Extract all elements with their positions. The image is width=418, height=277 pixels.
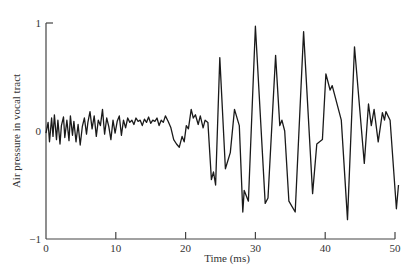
x-ticks: 01020304050	[43, 232, 401, 254]
x-tick-label: 0	[43, 242, 49, 254]
waveform-line	[46, 26, 399, 219]
x-tick-label: 50	[390, 242, 402, 254]
x-axis-label: Time (ms)	[204, 252, 250, 265]
x-tick-label: 20	[180, 242, 192, 254]
x-tick-label: 40	[320, 242, 332, 254]
x-tick-label: 30	[250, 242, 262, 254]
x-tick-label: 10	[110, 242, 122, 254]
y-tick-label: −1	[29, 233, 41, 245]
axes	[46, 23, 395, 239]
y-ticks: 10−1	[29, 17, 41, 245]
y-tick-label: 0	[36, 125, 42, 137]
waveform-chart: 01020304050 10−1 Time (ms) Air pressure …	[0, 0, 418, 277]
y-tick-label: 1	[36, 17, 42, 29]
y-axis-label: Air pressure in vocal tract	[10, 74, 22, 188]
